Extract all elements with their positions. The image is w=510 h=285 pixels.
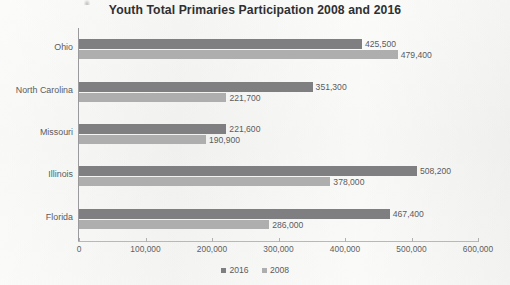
bar-value-label: 351,300 <box>316 82 347 92</box>
category-label: Illinois <box>48 169 73 179</box>
bar-2008-illinois[interactable] <box>79 177 330 186</box>
bar-value-label: 190,900 <box>209 135 240 145</box>
category-label: Missouri <box>40 127 73 137</box>
bar-value-label: 467,400 <box>393 209 424 219</box>
bar-value-label: 286,000 <box>272 220 303 230</box>
bar-value-label: 425,500 <box>365 39 396 49</box>
category-label: Ohio <box>54 42 73 52</box>
legend-swatch-2016 <box>221 268 226 273</box>
x-axis-tick-label: 0 <box>77 244 82 254</box>
x-axis-tick <box>79 238 80 242</box>
bar-2016-missouri[interactable] <box>79 124 226 134</box>
legend-label-2008: 2008 <box>270 265 289 275</box>
x-axis-tick-label: 100,000 <box>130 244 160 254</box>
bar-group: Illinois508,200378,000 <box>79 166 478 186</box>
bar-2016-illinois[interactable] <box>79 166 417 176</box>
x-axis-tick-label: 200,000 <box>197 244 227 254</box>
x-axis-tick-label: 400,000 <box>330 244 360 254</box>
x-axis-tick <box>345 238 346 242</box>
bar-chart: Youth Total Primaries Participation 2008… <box>0 0 510 285</box>
legend-label-2016: 2016 <box>229 265 248 275</box>
bar-2008-florida[interactable] <box>79 220 269 229</box>
x-axis-tick <box>146 238 147 242</box>
plot-area: Ohio425,500479,400North Carolina351,3002… <box>79 28 478 240</box>
legend-item-2008[interactable]: 2008 <box>262 265 290 275</box>
legend-swatch-2008 <box>262 268 267 273</box>
bar-2016-north-carolina[interactable] <box>79 82 313 92</box>
x-axis-tick-label: 300,000 <box>263 244 293 254</box>
bar-group: Ohio425,500479,400 <box>79 39 478 59</box>
x-axis-tick <box>279 238 280 242</box>
bar-2008-missouri[interactable] <box>79 135 206 144</box>
bar-2016-ohio[interactable] <box>79 39 362 49</box>
legend-item-2016[interactable]: 2016 <box>221 265 249 275</box>
chart-legend: 2016 2008 <box>0 265 510 275</box>
category-label: Florida <box>46 212 73 222</box>
bar-value-label: 221,700 <box>229 93 260 103</box>
bar-2016-florida[interactable] <box>79 209 390 219</box>
bar-group: Missouri221,600190,900 <box>79 124 478 144</box>
category-label: North Carolina <box>16 85 73 95</box>
x-axis-tick-label: 500,000 <box>396 244 426 254</box>
bar-value-label: 479,400 <box>401 50 432 60</box>
bar-value-label: 508,200 <box>420 166 451 176</box>
bar-value-label: 221,600 <box>229 124 260 134</box>
x-axis-tick <box>212 238 213 242</box>
bar-2008-north-carolina[interactable] <box>79 93 226 102</box>
bar-group: Florida467,400286,000 <box>79 209 478 229</box>
bar-group: North Carolina351,300221,700 <box>79 82 478 102</box>
x-axis-tick <box>478 238 479 242</box>
x-axis-tick <box>412 238 413 242</box>
chart-title: Youth Total Primaries Participation 2008… <box>0 3 510 17</box>
x-axis-tick-label: 600,000 <box>463 244 493 254</box>
bar-2008-ohio[interactable] <box>79 50 398 59</box>
bar-value-label: 378,000 <box>333 177 364 187</box>
